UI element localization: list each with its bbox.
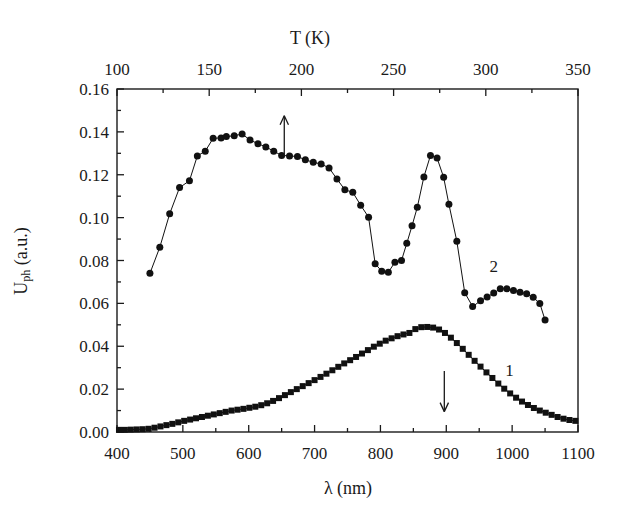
left-axis-title-main: U (11, 282, 31, 295)
series-2-point (440, 174, 447, 181)
series-2-point (146, 270, 153, 277)
series-2-point (333, 176, 340, 183)
series-1-point (252, 404, 258, 410)
series-1-point (442, 330, 448, 336)
series-1-point (566, 417, 572, 423)
left-axis-title-units: (a.u.) (11, 227, 31, 269)
series-1-point (181, 418, 187, 424)
series-2 (146, 131, 548, 324)
series-1-point (543, 410, 549, 416)
top-tick-label-200: 200 (289, 61, 315, 78)
series-2-point (302, 156, 309, 163)
down-arrow (440, 371, 448, 412)
series-1-point (383, 338, 389, 344)
bottom-tick-label-800: 800 (368, 445, 394, 462)
series-2-point (536, 300, 543, 307)
series-1-point (371, 344, 377, 350)
series-1-point (436, 327, 442, 333)
series-1-point (531, 405, 537, 411)
series-1-point (288, 389, 294, 395)
series-1-point (229, 408, 235, 414)
series-1-point (430, 325, 436, 331)
left-tick-label-0.12: 0.12 (71, 166, 109, 183)
bottom-tick-label-600: 600 (236, 445, 262, 462)
series-2-point (176, 184, 183, 191)
series-2-point (414, 204, 421, 211)
series-1-point (116, 427, 122, 433)
series-2-point (503, 285, 510, 292)
series-2-point (409, 222, 416, 229)
bottom-tick-label-900: 900 (434, 445, 460, 462)
series-2-point (210, 135, 217, 142)
top-tick-label-300: 300 (473, 61, 499, 78)
series-1-point (412, 326, 418, 332)
series-2-point (365, 214, 372, 221)
series-1-point (478, 364, 484, 370)
data-series (116, 131, 578, 433)
series-1-point (377, 341, 383, 347)
series-2-point (461, 289, 468, 296)
series-2-point (310, 159, 317, 166)
series-1-point (549, 412, 555, 418)
series-2-point (427, 152, 434, 159)
series-1-point (169, 421, 175, 427)
series-2-point (398, 257, 405, 264)
left-tick-label-0.00: 0.00 (71, 424, 109, 441)
series-1-point (341, 360, 347, 366)
series-1-point (537, 408, 543, 414)
series-1-point (193, 415, 199, 421)
series-2-point (542, 317, 549, 324)
series-2-point (477, 297, 484, 304)
series-1-point (175, 419, 181, 425)
series-2-point (403, 240, 410, 247)
series-1-point (525, 402, 531, 408)
bottom-axis-title: λ (nm) (324, 479, 372, 497)
series-2-point (420, 173, 427, 180)
series-1-point (217, 410, 223, 416)
top-tick-label-250: 250 (381, 61, 407, 78)
series-1-point (555, 414, 561, 420)
series-2-point (202, 148, 209, 155)
series-1-point (235, 407, 241, 413)
series-1-point (483, 369, 489, 375)
series-1-point (122, 427, 128, 433)
series-2-point (254, 140, 261, 147)
series-2-point (445, 201, 452, 208)
left-axis-title-wrapper: Uph (a.u.) (12, 227, 32, 295)
series-2-point (434, 155, 441, 162)
series-2-point (530, 294, 537, 301)
series-1-point (211, 411, 217, 417)
series-1-point (317, 374, 323, 380)
bottom-tick-label-700: 700 (302, 445, 328, 462)
left-tick-label-0.02: 0.02 (71, 381, 109, 398)
left-tick-label-0.04: 0.04 (71, 338, 109, 355)
series-2-point (231, 132, 238, 139)
series-1-point (152, 425, 158, 431)
series-1-point (140, 426, 146, 432)
series-2-point (270, 148, 277, 155)
series-2-point (484, 293, 491, 300)
series-1-point (258, 402, 264, 408)
series-1-point (246, 405, 252, 411)
series-1-point (507, 390, 513, 396)
left-tick-label-0.06: 0.06 (71, 295, 109, 312)
figure-container: T (K) λ (nm) Uph (a.u.) 4005006007008009… (0, 0, 623, 523)
series-1-point (353, 354, 359, 360)
series-2-point (166, 210, 173, 217)
top-axis-title: T (K) (290, 29, 330, 47)
series-inline-label-2: 2 (489, 257, 498, 274)
series-2-point (490, 290, 497, 297)
series-2-point (341, 186, 348, 193)
bottom-tick-label-1000: 1000 (495, 445, 529, 462)
series-2-point (262, 143, 269, 150)
left-axis-title-subscript: ph (19, 270, 33, 282)
series-1-point (454, 340, 460, 346)
series-1-point (495, 381, 501, 387)
bottom-tick-label-500: 500 (170, 445, 196, 462)
series-1-point (223, 409, 229, 415)
series-2-point (517, 289, 524, 296)
series-1-point (489, 375, 495, 381)
series-1-point (199, 414, 205, 420)
plot-frame (117, 89, 578, 432)
series-1-point (306, 380, 312, 386)
